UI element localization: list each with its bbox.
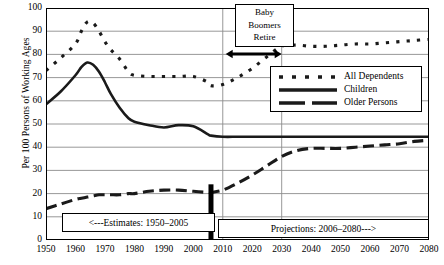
legend-item-all-dependents: All Dependents (277, 70, 403, 84)
y-tick-label: 30 (16, 165, 42, 175)
y-tick-label: 60 (16, 96, 42, 106)
legend-label-all-dependents: All Dependents (344, 72, 403, 82)
y-tick-label: 20 (16, 189, 42, 199)
y-tick-label: 70 (16, 73, 42, 83)
bb-line-3: Retire (236, 31, 293, 44)
series-line-older-persons (46, 140, 429, 208)
baby-boomers-arrowhead (226, 50, 233, 58)
y-tick-label: 40 (16, 142, 42, 152)
legend-label-children: Children (344, 85, 377, 95)
legend-item-older-persons: Older Persons (277, 96, 398, 110)
estimates-range-box: <---Estimates: 1950–2005 (62, 213, 215, 232)
baby-boomers-arrowhead (275, 50, 282, 58)
legend-swatch-solid (277, 85, 339, 95)
legend: All Dependents Children Older Persons (270, 66, 422, 112)
chart-root: Per 100 Persons of Working Ages 01020304… (0, 0, 444, 265)
bb-line-1: Baby (236, 6, 293, 19)
y-tick-label: 50 (16, 119, 42, 129)
legend-label-older-persons: Older Persons (344, 98, 398, 108)
projections-range-box: Projections: 2006–2080---> (218, 219, 429, 238)
legend-item-children: Children (277, 83, 377, 97)
y-tick-label: 100 (16, 3, 42, 13)
projections-range-label: Projections: 2006–2080---> (271, 224, 376, 234)
y-tick-label: 10 (16, 212, 42, 222)
y-tick-label: 90 (16, 26, 42, 36)
baby-boomers-retire-annotation: Baby Boomers Retire (235, 4, 294, 47)
estimates-range-label: <---Estimates: 1950–2005 (89, 218, 189, 228)
x-tick-label: 2080 (412, 245, 444, 255)
legend-swatch-dotted (277, 72, 339, 82)
bb-line-2: Boomers (236, 19, 293, 32)
y-tick-label: 80 (16, 49, 42, 59)
legend-swatch-dashed (277, 98, 339, 108)
